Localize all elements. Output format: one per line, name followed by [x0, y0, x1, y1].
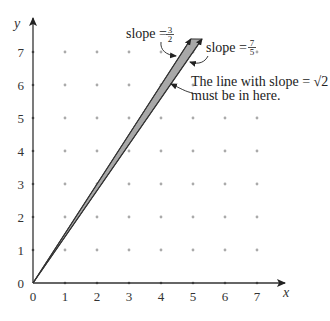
grid-dot [160, 51, 163, 54]
grid-dot [64, 84, 67, 87]
grid-dot [96, 51, 99, 54]
grid-dot [192, 249, 195, 252]
grid-dot [96, 150, 99, 153]
grid-dot [64, 183, 67, 186]
x-tick-label: 3 [126, 289, 133, 304]
grid-dot [96, 216, 99, 219]
grid-dot [224, 117, 227, 120]
grid-dot [192, 150, 195, 153]
slope-3-2-text: slope = [126, 26, 167, 41]
grid-dot [224, 183, 227, 186]
grid-dot [256, 150, 259, 153]
x-tick-label: 6 [222, 289, 229, 304]
grid-dot [64, 216, 67, 219]
grid-dot [128, 117, 131, 120]
y-tick-label: 0 [18, 276, 25, 291]
grid-dot [64, 249, 67, 252]
grid-dot [96, 117, 99, 120]
y-tick-label: 2 [18, 210, 25, 225]
grid-dot [128, 183, 131, 186]
slope-3-2-denominator: 2 [168, 34, 173, 44]
y-tick-label: 4 [18, 144, 25, 159]
y-tick-labels: 01234567 [18, 45, 25, 291]
grid-dot [128, 216, 131, 219]
grid-dot [128, 150, 131, 153]
grid-dot [160, 183, 163, 186]
y-axis-label: y [12, 16, 21, 31]
grid-dot [256, 117, 259, 120]
x-tick-label: 7 [254, 289, 261, 304]
grid-dot [64, 150, 67, 153]
grid-dot [160, 117, 163, 120]
grid-dot [128, 51, 131, 54]
line-slope-7-5 [33, 39, 202, 283]
grid-dot [96, 84, 99, 87]
grid-dot [160, 216, 163, 219]
sqrt2-note-line2: must be in here. [191, 88, 280, 103]
x-tick-label: 5 [190, 289, 197, 304]
grid-dot [256, 183, 259, 186]
grid-dot [256, 51, 259, 54]
grid-dot [64, 51, 67, 54]
x-tick-label: 0 [30, 289, 37, 304]
grid-dot [224, 216, 227, 219]
grid-dot [160, 150, 163, 153]
slope-7-5-denominator: 5 [250, 47, 255, 57]
line-slope-3-2 [33, 39, 191, 283]
y-tick-label: 3 [18, 177, 25, 192]
x-tick-label: 1 [62, 289, 69, 304]
slope-7-5-pointer-arrow [190, 56, 208, 63]
grid-dot [96, 249, 99, 252]
sqrt2-note-line1: The line with slope = √2 [191, 74, 328, 89]
grid-dot [192, 117, 195, 120]
grid-dot [256, 249, 259, 252]
slope-diagram: 01234567 01234567 x y slope = 3 2 slope … [0, 0, 330, 321]
grid-dot [192, 216, 195, 219]
annotation-sqrt2: The line with slope = √2 must be in here… [171, 74, 328, 103]
grid-dot [128, 249, 131, 252]
y-tick-label: 7 [18, 45, 25, 60]
y-tick-label: 5 [18, 111, 25, 126]
grid-dot [224, 150, 227, 153]
grid-dot [256, 216, 259, 219]
y-tick-label: 1 [18, 243, 25, 258]
x-tick-labels: 01234567 [30, 289, 261, 304]
grid-dot [192, 183, 195, 186]
annotation-slope-3-2: slope = 3 2 [126, 25, 176, 56]
slope-3-2-pointer-arrow [161, 42, 176, 56]
y-tick-label: 6 [18, 78, 25, 93]
sqrt2-pointer-arrow [171, 84, 193, 93]
grid-dot [224, 249, 227, 252]
x-tick-label: 2 [94, 289, 101, 304]
x-axis-label: x [282, 285, 290, 300]
grid-dot [160, 249, 163, 252]
x-tick-label: 4 [158, 289, 165, 304]
grid-dot [128, 84, 131, 87]
slope-7-5-text: slope = [206, 40, 247, 55]
grid-dot [64, 117, 67, 120]
